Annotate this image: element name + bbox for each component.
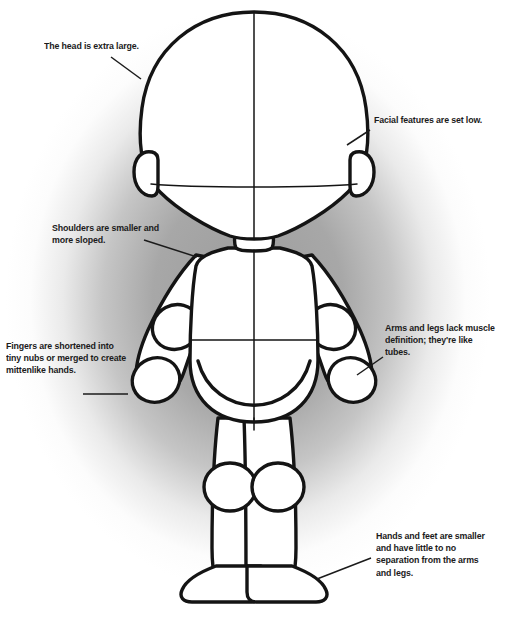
left-knee [204,463,256,511]
callout-arms-and-legs: Arms and legs lack muscle definition; th… [385,322,500,359]
right-knee [252,463,304,511]
chibi-proportions-figure-page: The head is extra large. Facial features… [0,0,508,620]
chibi-figure-illustration [0,0,508,620]
callout-fingers: Fingers are shortened into tiny nubs or … [6,340,135,377]
callout-hands-and-feet: Hands and feet are smaller and have litt… [376,530,491,579]
callout-facial-features: Facial features are set low. [374,114,495,126]
right-ear [350,152,374,196]
leader-line-hands [317,558,371,579]
callout-shoulders: Shoulders are smaller and more sloped. [52,222,172,246]
right-foot [247,566,327,602]
callout-head: The head is extra large. [44,40,182,52]
left-ear [134,152,158,196]
leader-line-head [111,57,141,79]
